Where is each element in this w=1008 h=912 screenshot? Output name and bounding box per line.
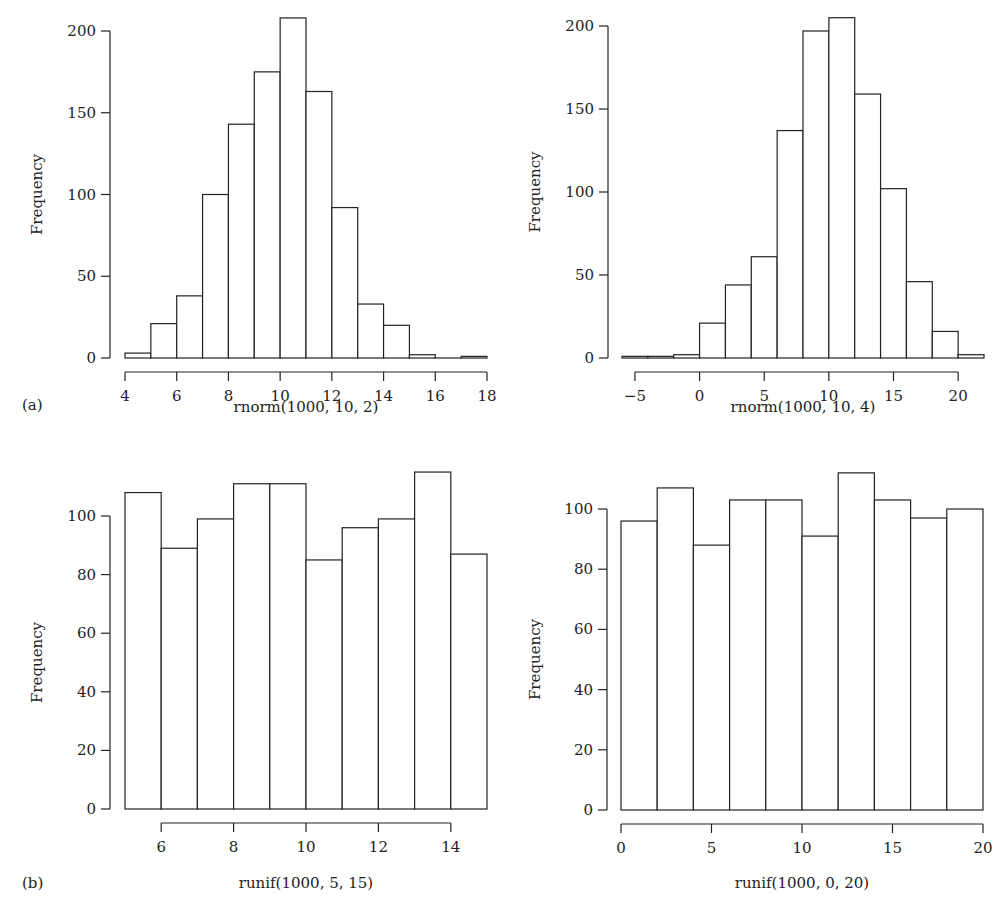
y-tick-label: 40	[77, 683, 96, 701]
histogram-bar	[203, 195, 229, 359]
histogram-bar	[306, 560, 342, 809]
histogram-panel-3: 02040608010068101214runif(1000, 5, 15)Fr…	[28, 472, 487, 892]
x-axis-title: rnorm(1000, 10, 2)	[234, 398, 379, 416]
histogram-bar	[730, 500, 766, 810]
x-tick-label: 5	[707, 839, 717, 857]
histogram-bar	[161, 548, 197, 809]
histogram-bar	[409, 355, 435, 358]
y-tick-label: 80	[574, 560, 593, 578]
x-axis-title: rnorm(1000, 10, 4)	[731, 398, 876, 416]
x-tick-label: 16	[426, 387, 445, 405]
x-tick-label: 10	[792, 839, 811, 857]
histogram-bar	[461, 356, 487, 358]
y-tick-label: 60	[574, 620, 593, 638]
x-tick-label: 12	[369, 838, 388, 856]
y-axis-title: Frequency	[28, 153, 46, 235]
histogram-figure: 0501001502004681012141618rnorm(1000, 10,…	[0, 0, 1008, 912]
histogram-bar	[451, 554, 487, 809]
histogram-bar	[932, 331, 958, 358]
histogram-bar	[270, 484, 306, 809]
y-tick-label: 200	[67, 22, 96, 40]
histogram-bar	[829, 18, 855, 358]
histogram-bar	[254, 72, 280, 358]
histogram-panel-4: 02040608010005101520runif(1000, 0, 20)Fr…	[526, 473, 993, 892]
y-axis-title: Frequency	[526, 151, 544, 233]
histogram-bar	[674, 355, 700, 358]
histogram-bar	[332, 208, 358, 358]
histogram-bar	[838, 473, 874, 810]
x-tick-label: 6	[172, 387, 182, 405]
y-tick-label: 50	[575, 266, 594, 284]
panel-tag-b: (b)	[22, 874, 43, 892]
y-tick-label: 40	[574, 681, 593, 699]
histogram-bar	[125, 353, 151, 358]
histogram-bar	[751, 257, 777, 358]
y-tick-label: 0	[86, 800, 96, 818]
histogram-bar	[306, 91, 332, 358]
y-tick-label: 50	[77, 267, 96, 285]
x-tick-label: 18	[477, 387, 496, 405]
histogram-bar	[648, 356, 674, 358]
x-tick-label: 0	[695, 387, 705, 405]
histogram-bar	[415, 472, 451, 809]
x-tick-label: 8	[224, 387, 234, 405]
bars	[621, 473, 983, 810]
histogram-bar	[803, 31, 829, 358]
bars	[125, 18, 487, 358]
histogram-bar	[881, 189, 907, 358]
histogram-bar	[280, 18, 306, 358]
x-tick-label: 10	[296, 838, 315, 856]
histogram-bar	[342, 528, 378, 809]
histogram-panels: 0501001502004681012141618rnorm(1000, 10,…	[28, 17, 993, 892]
y-tick-label: 100	[67, 186, 96, 204]
x-axis-title: runif(1000, 0, 20)	[735, 874, 869, 892]
x-tick-label: 14	[441, 838, 460, 856]
histogram-bar	[358, 304, 384, 358]
x-tick-label: 15	[883, 839, 902, 857]
histogram-bar	[906, 282, 932, 358]
x-tick-label: 6	[156, 838, 166, 856]
y-axis-title: Frequency	[526, 618, 544, 700]
bars	[622, 18, 984, 358]
x-tick-label: 4	[120, 387, 130, 405]
y-tick-label: 100	[564, 500, 593, 518]
histogram-bar	[151, 324, 177, 358]
x-tick-label: 8	[229, 838, 239, 856]
histogram-bar	[197, 519, 233, 809]
histogram-bar	[378, 519, 414, 809]
y-tick-label: 200	[565, 17, 594, 35]
y-tick-label: 100	[67, 507, 96, 525]
histogram-bar	[384, 325, 410, 358]
y-tick-label: 0	[86, 349, 96, 367]
x-tick-label: 20	[949, 387, 968, 405]
histogram-bar	[125, 493, 161, 809]
y-tick-label: 20	[574, 741, 593, 759]
histogram-bar	[622, 356, 648, 358]
histogram-bar	[700, 323, 726, 358]
x-tick-label: −5	[624, 387, 646, 405]
histogram-bar	[802, 536, 838, 810]
histogram-bar	[777, 131, 803, 358]
histogram-bar	[947, 509, 983, 810]
y-tick-label: 150	[565, 100, 594, 118]
y-tick-label: 0	[583, 801, 593, 819]
histogram-panel-1: 0501001502004681012141618rnorm(1000, 10,…	[28, 18, 497, 416]
histogram-bar	[855, 94, 881, 358]
histogram-bar	[766, 500, 802, 810]
histogram-bar	[621, 521, 657, 810]
histogram-bar	[657, 488, 693, 810]
y-tick-label: 60	[77, 624, 96, 642]
x-tick-label: 0	[616, 839, 626, 857]
y-tick-label: 100	[565, 183, 594, 201]
x-tick-label: 20	[973, 839, 992, 857]
y-tick-label: 150	[67, 104, 96, 122]
histogram-bar	[234, 484, 270, 809]
histogram-panel-2: 050100150200−505101520rnorm(1000, 10, 4)…	[526, 17, 984, 416]
histogram-bar	[874, 500, 910, 810]
histogram-bar	[228, 124, 254, 358]
histogram-bar	[911, 518, 947, 810]
panel-tag-a: (a)	[22, 396, 43, 414]
y-axis-title: Frequency	[28, 621, 46, 703]
y-tick-label: 0	[584, 349, 594, 367]
histogram-bar	[725, 285, 751, 358]
